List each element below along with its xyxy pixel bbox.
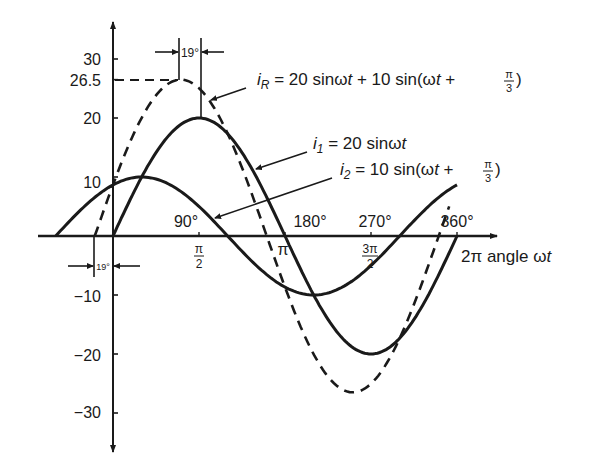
svg-text:20: 20 bbox=[83, 110, 101, 127]
svg-text:π: π bbox=[505, 68, 513, 80]
svg-text:): ) bbox=[495, 160, 501, 179]
svg-text:−30: −30 bbox=[74, 404, 101, 421]
svg-text:3: 3 bbox=[485, 172, 491, 184]
svg-text:π: π bbox=[195, 242, 203, 256]
svg-text:180°: 180° bbox=[293, 213, 326, 230]
label-i2: i2 = 10 sin(ωt + π 3 ) bbox=[340, 158, 501, 184]
label-iR: iR = 20 sinωt + 10 sin(ωt + π 3 ) bbox=[257, 68, 522, 94]
svg-text:30: 30 bbox=[83, 51, 101, 68]
label-i1: i1 = 20 sinωt bbox=[313, 134, 407, 156]
svg-text:360°: 360° bbox=[440, 213, 473, 230]
svg-text:i1 = 20 sinωt: i1 = 20 sinωt bbox=[313, 134, 407, 156]
phase-marker-top-label: 19° bbox=[181, 46, 199, 60]
svg-text:i2 = 10 sin(ωt +: i2 = 10 sin(ωt + bbox=[340, 160, 454, 182]
svg-text:iR = 20 sinωt + 10 sin(ωt +: iR = 20 sinωt + 10 sin(ωt + bbox=[257, 70, 455, 92]
svg-text:−20: −20 bbox=[74, 347, 101, 364]
svg-text:π: π bbox=[277, 241, 288, 258]
svg-text:270°: 270° bbox=[358, 213, 391, 230]
ir-leader bbox=[211, 88, 246, 100]
svg-text:26.5: 26.5 bbox=[70, 72, 101, 89]
leader-arrows bbox=[211, 88, 332, 218]
svg-text:): ) bbox=[516, 70, 522, 89]
i1-leader bbox=[256, 152, 307, 169]
phasor-sine-plot: 19° 19° iR = 20 sinωt + 10 sin(ωt + π 3 … bbox=[0, 0, 596, 463]
svg-text:2: 2 bbox=[367, 257, 374, 271]
svg-text:π: π bbox=[484, 158, 492, 170]
svg-text:90°: 90° bbox=[174, 213, 198, 230]
phase-marker-bottom-label: 19° bbox=[96, 262, 110, 272]
phase-marker-bottom: 19° bbox=[68, 236, 140, 277]
svg-text:3π: 3π bbox=[363, 242, 378, 256]
svg-text:2: 2 bbox=[196, 257, 203, 271]
svg-text:−10: −10 bbox=[74, 288, 101, 305]
svg-text:3: 3 bbox=[506, 82, 512, 94]
svg-text:2π angle ωt: 2π angle ωt bbox=[461, 247, 553, 266]
svg-text:10: 10 bbox=[83, 174, 101, 191]
